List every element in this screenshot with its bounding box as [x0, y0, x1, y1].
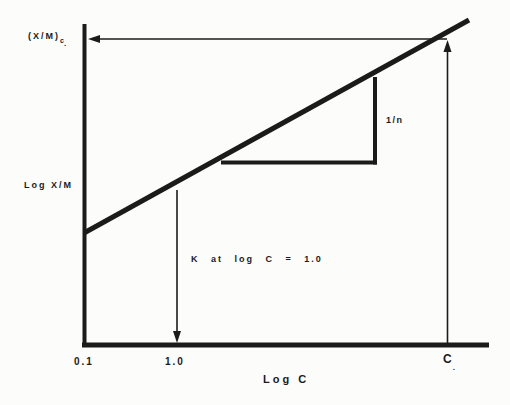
- xm-reference-arrowhead-left-icon: [88, 35, 100, 43]
- freundlich-isotherm-figure: (X/M)c. Log X/M K at log C = 1.0 1/n 0.1…: [0, 0, 510, 405]
- x-reference-label-base: C: [443, 352, 453, 366]
- y-reference-label-base: (X/M): [28, 31, 60, 41]
- slope-label: 1/n: [386, 115, 404, 125]
- x-tick-0-1: 0.1: [74, 356, 94, 367]
- isotherm-line: [84, 20, 469, 233]
- isotherm-plot-svg: [0, 0, 510, 405]
- x-reference-label: C.: [443, 352, 455, 372]
- k-intercept-arrowhead-down-icon: [173, 331, 181, 343]
- k-annotation-label: K at log C = 1.0: [191, 254, 323, 264]
- y-axis-label: Log X/M: [24, 180, 73, 190]
- x-axis-label: Log C: [263, 373, 309, 385]
- x-tick-1-0: 1.0: [165, 356, 185, 367]
- c-reference-arrowhead-up-icon: [444, 40, 452, 52]
- y-reference-label-dot: .: [64, 39, 66, 48]
- x-reference-label-dot: .: [453, 363, 455, 372]
- y-reference-label: (X/M)c.: [28, 31, 66, 48]
